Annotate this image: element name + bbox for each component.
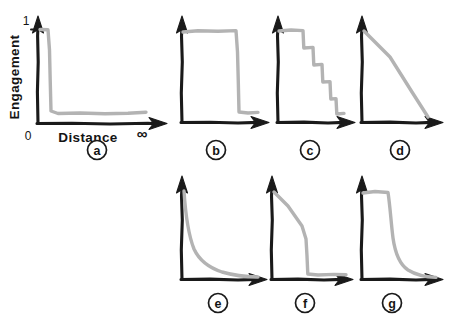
panel-g: g — [357, 176, 444, 313]
panel-b: b — [177, 16, 270, 160]
panel-label-text-a: a — [94, 144, 102, 158]
panel-label-d: d — [391, 141, 410, 160]
x-axis-label-a: Distance — [58, 130, 118, 145]
x-axis-line-a — [37, 123, 156, 124]
panel-c: c — [273, 16, 356, 160]
panel-label-e: e — [209, 294, 228, 313]
panel-label-text-g: g — [388, 297, 396, 311]
y-axis-line-d — [361, 26, 362, 122]
curve-e — [184, 191, 258, 277]
panel-label-f: f — [296, 294, 315, 313]
panel-e: e — [177, 176, 268, 313]
x-axis-line-e — [181, 279, 256, 280]
panel-label-b: b — [207, 141, 226, 160]
y-axis-line-g — [361, 186, 362, 279]
curve-c — [279, 30, 344, 114]
y-axis-line-e — [181, 186, 182, 279]
panel-label-text-e: e — [215, 297, 222, 311]
x-axis-line-b — [181, 122, 258, 123]
panel-label-text-d: d — [396, 144, 404, 158]
panel-label-text-b: b — [212, 144, 220, 158]
origin-label-a: 0 — [25, 129, 32, 143]
panel-label-a: a — [88, 141, 107, 160]
panel-label-c: c — [301, 141, 320, 160]
panel-d: d — [357, 16, 444, 160]
x-axis-line-f — [271, 279, 342, 280]
curve-b — [183, 31, 258, 113]
curve-d — [364, 31, 428, 117]
y-axis-line-a — [37, 26, 38, 123]
panel-f: f — [267, 176, 354, 313]
y-axis-label-a: Engagement — [7, 34, 22, 119]
x-axis-infinity-label-a: ∞ — [137, 125, 148, 142]
y-axis-line-c — [277, 26, 278, 122]
figure-container: Engagement 1 0 Distance ∞ a b — [0, 0, 454, 325]
x-axis-line-c — [277, 122, 344, 123]
schematic-plots-figure: Engagement 1 0 Distance ∞ a b — [0, 0, 454, 325]
curve-a — [40, 30, 146, 114]
panel-f-axes — [267, 176, 354, 286]
x-axis-line-d — [361, 122, 432, 123]
y-axis-line-f — [271, 186, 272, 279]
curve-g — [363, 192, 436, 278]
x-axis-line-g — [361, 279, 432, 280]
panel-a: Engagement 1 0 Distance ∞ a — [7, 14, 167, 160]
panel-label-g: g — [383, 294, 402, 313]
panel-label-text-c: c — [307, 144, 314, 158]
curve-f — [274, 192, 346, 275]
y-axis-tick-label-a: 1 — [23, 14, 30, 28]
panel-c-axes — [273, 16, 356, 129]
y-axis-line-b — [181, 26, 182, 122]
